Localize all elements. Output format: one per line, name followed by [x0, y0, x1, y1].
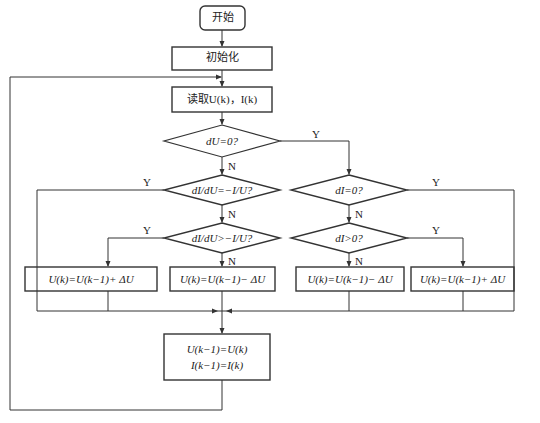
branch-no-gt: N [228, 255, 236, 267]
update-label-line2: I(k−1)=I(k) [164, 358, 270, 372]
init-label: 初始化 [172, 51, 272, 65]
branch-yes-du0: Y [312, 128, 320, 140]
branch-yes-eq: Y [143, 176, 151, 188]
read-label: 读取U(k)，I(k) [172, 92, 272, 106]
decrease-u-right-label: U(k)=U(k−1)− ΔU [296, 272, 404, 286]
decision-di-zero-label: dI=0? [299, 183, 399, 197]
update-box [164, 334, 270, 380]
branch-yes-gt: Y [143, 224, 151, 236]
branch-no-di0: N [355, 208, 363, 220]
decision-di-positive-label: dI>0? [299, 231, 399, 245]
decision-du-zero-label: dU=0? [172, 134, 272, 148]
branch-no-du0: N [228, 160, 236, 172]
update-label-line1: U(k−1)=U(k) [164, 342, 270, 356]
decrease-u-left-label: U(k)=U(k−1)− ΔU [170, 272, 275, 286]
branch-no-eq: N [228, 208, 236, 220]
start-label: 开始 [200, 11, 245, 25]
increase-u-left-label: U(k)=U(k−1)+ ΔU [25, 272, 157, 286]
branch-yes-digt0: Y [432, 224, 440, 236]
decision-didu-greater-label: dI/dU>−I/U? [172, 231, 272, 245]
branch-no-digt0: N [355, 255, 363, 267]
increase-u-right-label: U(k)=U(k−1)+ ΔU [411, 272, 514, 286]
branch-yes-di0: Y [432, 176, 440, 188]
decision-didu-equal-label: dI/dU=−I/U? [172, 183, 272, 197]
